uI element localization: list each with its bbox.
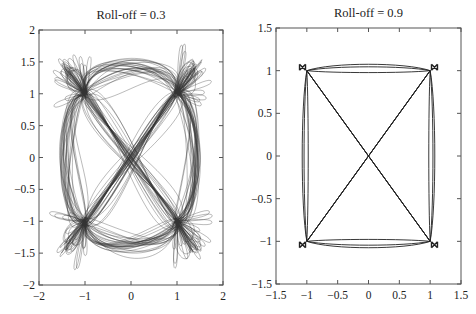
y-tick-label: 2 bbox=[29, 24, 35, 36]
x-tick-label: −2 bbox=[33, 290, 45, 302]
y-tick-label: −0.5 bbox=[14, 183, 35, 195]
y-tick-label: 1 bbox=[266, 65, 272, 77]
plot-right: −1.5−1−0.500.511.5−1.5−1−0.500.511.5 bbox=[251, 22, 468, 301]
y-tick-label: −0.5 bbox=[251, 193, 272, 205]
x-tick-label: −1 bbox=[79, 290, 91, 302]
x-tick-label: 2 bbox=[220, 290, 226, 302]
x-tick-label: 0.5 bbox=[392, 289, 407, 301]
y-tick-label: −1 bbox=[260, 235, 272, 247]
y-tick-label: −1.5 bbox=[251, 278, 272, 290]
y-tick-label: 1 bbox=[29, 88, 35, 100]
x-tick-label: 1 bbox=[427, 289, 433, 301]
figure: Roll-off = 0.3 Roll-off = 0.9 −2−1012−2−… bbox=[0, 0, 476, 314]
chart-title-right: Roll-off = 0.9 bbox=[276, 6, 461, 21]
y-tick-label: 0.5 bbox=[258, 107, 273, 119]
y-tick-label: 0 bbox=[266, 150, 272, 162]
x-tick-label: 1.5 bbox=[454, 289, 469, 301]
x-tick-label: 1 bbox=[174, 290, 180, 302]
chart-title-left: Roll-off = 0.3 bbox=[39, 8, 223, 23]
chart-canvas: −2−1012−2−1.5−1−0.500.511.52 −1.5−1−0.50… bbox=[0, 0, 476, 314]
x-tick-label: 0 bbox=[128, 290, 134, 302]
corner-marker bbox=[300, 242, 306, 248]
x-tick-label: 0 bbox=[366, 289, 372, 301]
y-tick-label: 1.5 bbox=[258, 22, 273, 34]
y-tick-label: −2 bbox=[23, 279, 35, 291]
trajectory-lines bbox=[300, 64, 438, 247]
y-tick-label: 0.5 bbox=[21, 120, 36, 132]
plot-left: −2−1012−2−1.5−1−0.500.511.52 bbox=[14, 24, 226, 302]
x-tick-label: −1.5 bbox=[266, 289, 287, 301]
corner-marker bbox=[431, 64, 437, 70]
y-tick-label: −1.5 bbox=[14, 247, 35, 259]
corner-marker bbox=[300, 64, 306, 70]
y-tick-label: 1.5 bbox=[21, 56, 36, 68]
y-tick-label: 0 bbox=[29, 152, 35, 164]
trajectory-lines bbox=[50, 44, 213, 270]
x-tick-label: −0.5 bbox=[327, 289, 348, 301]
y-tick-label: −1 bbox=[23, 215, 35, 227]
corner-marker bbox=[431, 242, 437, 248]
x-tick-label: −1 bbox=[301, 289, 313, 301]
